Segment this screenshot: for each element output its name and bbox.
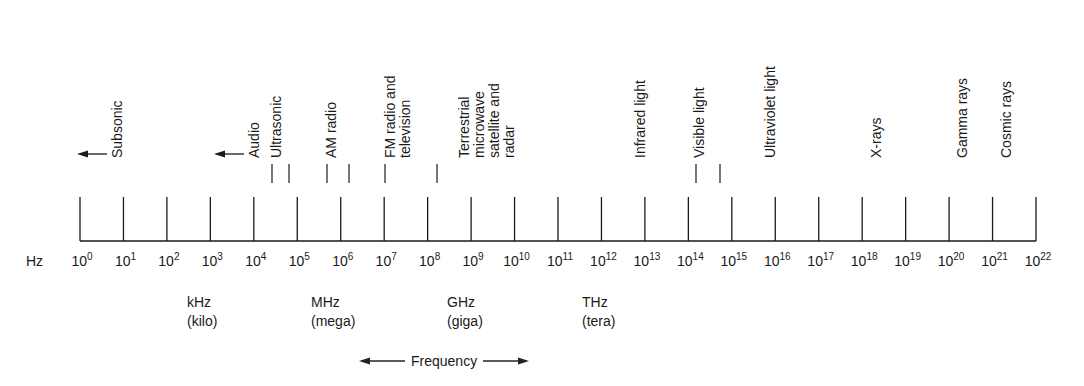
tick-label-1e7: 107 [376, 253, 397, 269]
frequency-caption: Frequency [359, 353, 529, 369]
unit-abbr: kHz [187, 293, 217, 312]
band-label-fm-radio-tv: FM radio and television [383, 76, 413, 158]
band-label-subsonic: Subsonic [110, 100, 125, 158]
hz-unit-label: Hz [26, 253, 43, 269]
tick-label-1e17: 1017 [807, 253, 834, 269]
unit-prefix-name: (kilo) [187, 312, 217, 331]
tick-label-1e18: 1018 [851, 253, 878, 269]
unit-mhz: MHz(mega) [311, 293, 355, 331]
tick-label-1e9: 109 [463, 253, 484, 269]
band-label-am-radio: AM radio [324, 102, 339, 158]
tick-label-1e5: 105 [289, 253, 310, 269]
band-label-infrared: Infrared light [633, 80, 648, 158]
tick-label-1e15: 1015 [720, 253, 747, 269]
tick-label-1e3: 103 [202, 253, 223, 269]
arrow-right-icon [483, 356, 529, 366]
band-label-ultraviolet: Ultraviolet light [763, 66, 778, 158]
tick-label-1e8: 108 [419, 253, 440, 269]
tick-label-1e6: 106 [332, 253, 353, 269]
tick-label-1e13: 1013 [634, 253, 661, 269]
arrow-left-icon [359, 356, 405, 366]
tick-label-1e11: 1011 [547, 253, 573, 269]
arrow-left-icon [214, 151, 244, 158]
band-label-cosmic: Cosmic rays [999, 81, 1014, 158]
arrow-left-icon [77, 151, 107, 158]
band-label-ultrasonic: Ultrasonic [269, 96, 284, 158]
tick-label-1e0: 100 [71, 253, 92, 269]
band-label-audio: Audio [247, 122, 262, 158]
tick-label-1e16: 1016 [764, 253, 791, 269]
tick-label-1e20: 1020 [938, 253, 965, 269]
tick-label-1e12: 1012 [590, 253, 617, 269]
frequency-label: Frequency [411, 353, 477, 369]
spectrum-diagram: SubsonicAudioUltrasonicAM radioFM radio … [0, 0, 1084, 386]
tick-label-1e19: 1019 [894, 253, 921, 269]
tick-label-1e4: 104 [245, 253, 266, 269]
unit-prefix-name: (giga) [447, 312, 483, 331]
tick-label-1e22: 1022 [1025, 253, 1052, 269]
unit-prefix-name: (tera) [582, 312, 615, 331]
band-label-gamma: Gamma rays [955, 78, 970, 158]
tick-label-1e14: 1014 [677, 253, 704, 269]
tick-label-1e21: 1021 [981, 253, 1008, 269]
unit-abbr: GHz [447, 293, 483, 312]
unit-thz: THz(tera) [582, 293, 615, 331]
tick-label-1e2: 102 [158, 253, 179, 269]
unit-prefix-name: (mega) [311, 312, 355, 331]
unit-ghz: GHz(giga) [447, 293, 483, 331]
unit-khz: kHz(kilo) [187, 293, 217, 331]
tick-label-1e1: 101 [115, 253, 136, 269]
band-label-x-rays: X-rays [869, 118, 884, 158]
unit-abbr: THz [582, 293, 615, 312]
axis-lines [0, 0, 1084, 386]
band-label-terrestrial-microwave: Terrestrial microwave satellite and rada… [457, 83, 517, 158]
band-label-visible: Visible light [692, 87, 707, 158]
unit-abbr: MHz [311, 293, 355, 312]
tick-label-1e10: 1010 [503, 253, 530, 269]
